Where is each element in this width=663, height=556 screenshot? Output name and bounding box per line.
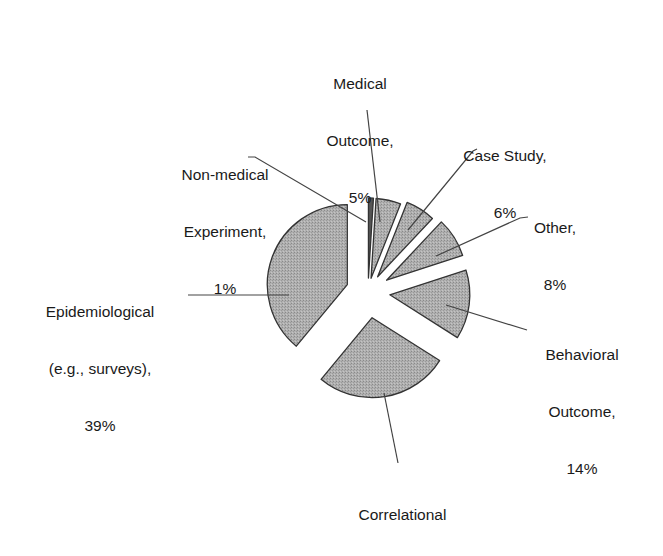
label-other: Other, 8%	[510, 180, 600, 313]
label-behavioral-outcome: Behavioral Outcome, 14%	[522, 307, 642, 497]
label-line: Case Study,	[440, 146, 570, 165]
label-line: Epidemiological	[20, 302, 180, 321]
label-line: 8%	[510, 275, 600, 294]
pie-slice-behavioral-outcome	[390, 270, 470, 338]
label-line: 14%	[522, 459, 642, 478]
label-line: 5%	[290, 188, 430, 207]
label-line: Experiment,	[150, 222, 300, 241]
leader-line-correlational	[384, 393, 398, 463]
label-line: Non-medical	[150, 165, 300, 184]
label-line: Behavioral	[522, 345, 642, 364]
label-correlational-study: Correlational Study, 27%	[335, 467, 470, 556]
label-line: (e.g., surveys),	[20, 359, 180, 378]
label-medical-outcome: Medical Outcome, 5%	[290, 36, 430, 226]
label-epidemiological: Epidemiological (e.g., surveys), 39%	[20, 264, 180, 454]
label-line: Medical	[290, 74, 430, 93]
label-line: 39%	[20, 416, 180, 435]
label-line: Outcome,	[522, 402, 642, 421]
label-line: Outcome,	[290, 131, 430, 150]
label-line: Other,	[510, 218, 600, 237]
label-line: Correlational	[335, 505, 470, 524]
pie-slice-correlational-study	[321, 318, 440, 398]
